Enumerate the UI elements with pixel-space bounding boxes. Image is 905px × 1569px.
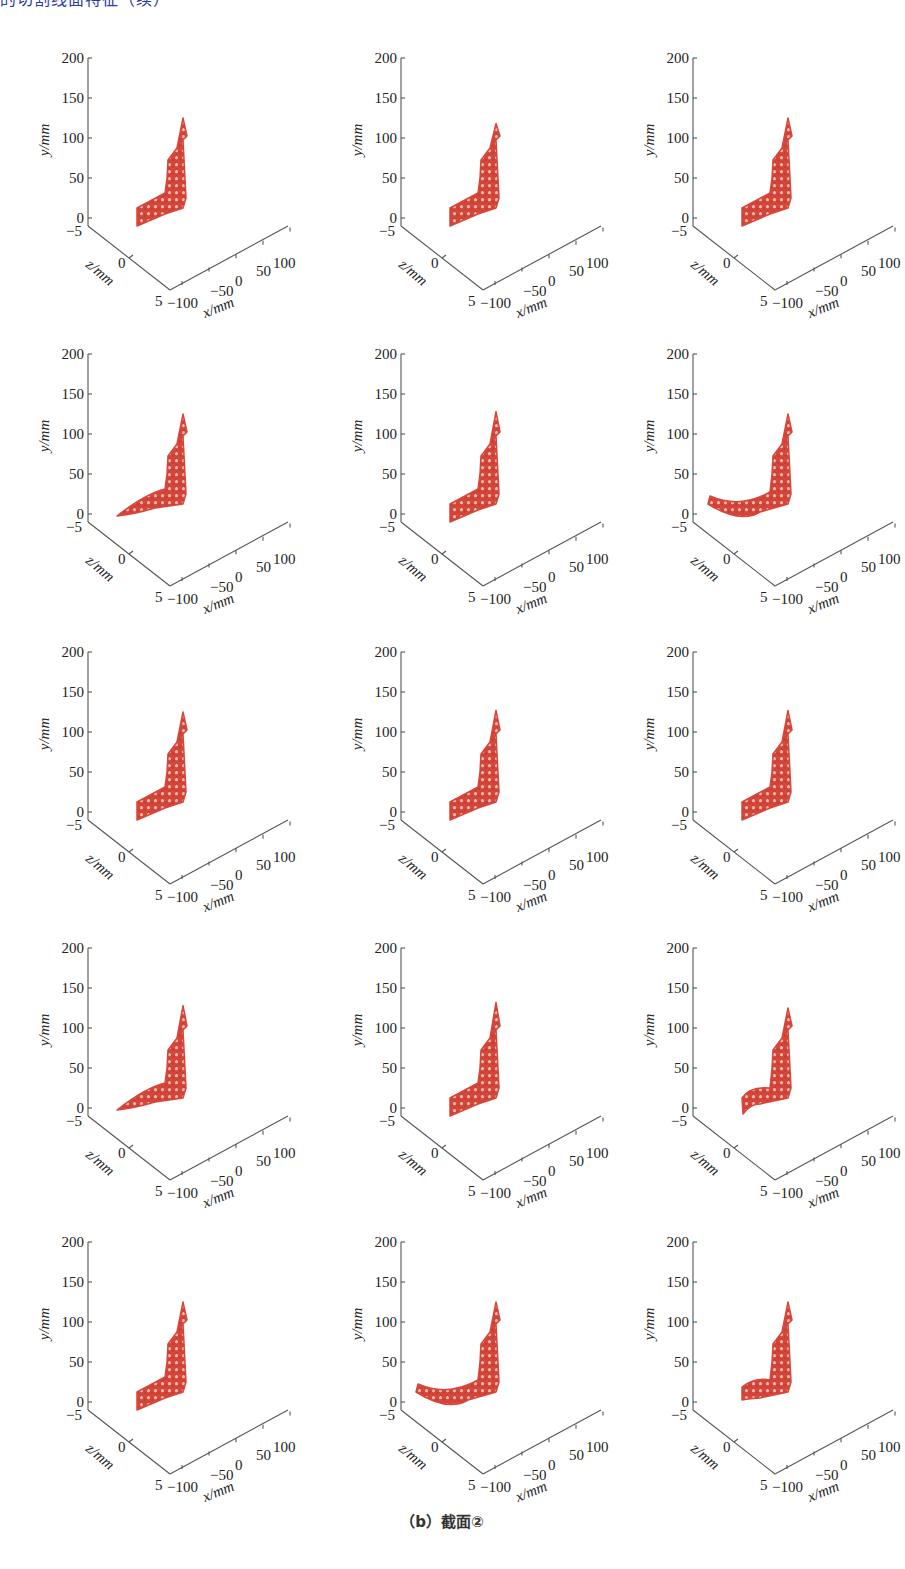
x-tick-label: −100 — [772, 1479, 803, 1495]
mesh-surface — [450, 412, 500, 522]
x-tick-label: 0 — [548, 1457, 556, 1473]
z-tick-label: −5 — [671, 817, 687, 833]
y-tick-label: 200 — [375, 1234, 398, 1250]
mesh-surface — [742, 710, 792, 820]
y-tick-label: 200 — [62, 1234, 85, 1250]
z-tick-label: −5 — [379, 817, 395, 833]
x-tick-label: 50 — [569, 559, 584, 575]
z-tick-label: 0 — [118, 551, 126, 567]
y-tick-label: 150 — [62, 980, 85, 996]
z-tick-label: 5 — [155, 1477, 163, 1493]
y-tick-label: 50 — [674, 1354, 689, 1370]
x-axis-label: x/mm — [804, 888, 841, 915]
x-tick-label: 100 — [273, 255, 296, 271]
x-tick-label: −100 — [480, 1479, 511, 1495]
subplot-2: 200150100500−505−100−50050100y/mmz/mmx/m… — [318, 28, 618, 328]
z-tick-label: 5 — [155, 293, 163, 309]
z-tick-label: −5 — [66, 1407, 82, 1423]
z-tick-label: −5 — [66, 519, 82, 535]
z-tick-label: 0 — [431, 1145, 439, 1161]
x-axis-label: x/mm — [199, 1478, 236, 1505]
y-tick-label: 200 — [375, 50, 398, 66]
z-tick-label: 0 — [723, 1145, 731, 1161]
mesh-surface — [742, 1302, 792, 1400]
x-tick-label: 50 — [861, 1153, 876, 1169]
z-tick-label: 0 — [431, 255, 439, 271]
x-tick-label: −100 — [480, 1185, 511, 1201]
z-tick-label: 5 — [155, 887, 163, 903]
x-tick-label: −100 — [772, 889, 803, 905]
x-tick-label: 50 — [861, 857, 876, 873]
z-axis-label: z/mm — [82, 255, 117, 288]
x-axis-label: x/mm — [804, 1184, 841, 1211]
z-tick-label: 5 — [760, 589, 768, 605]
subplot-10: 200150100500−505−100−50050100y/mmz/mmx/m… — [5, 918, 305, 1218]
y-axis-label: y/mm — [349, 1014, 365, 1049]
z-axis-label: z/mm — [395, 1439, 430, 1472]
x-tick-label: 0 — [840, 867, 848, 883]
y-tick-label: 100 — [667, 724, 690, 740]
z-tick-label: −5 — [671, 519, 687, 535]
y-axis-label: y/mm — [641, 718, 657, 753]
y-tick-label: 100 — [375, 1314, 398, 1330]
y-tick-label: 150 — [375, 386, 398, 402]
z-axis-label: z/mm — [82, 1145, 117, 1178]
z-tick-label: 0 — [118, 849, 126, 865]
y-axis-label: y/mm — [641, 1014, 657, 1049]
mesh-surface — [708, 414, 792, 517]
y-tick-label: 150 — [62, 1274, 85, 1290]
z-axis-label: z/mm — [82, 1439, 117, 1472]
y-axis-label: y/mm — [349, 420, 365, 455]
x-tick-label: 100 — [586, 255, 609, 271]
x-tick-label: 50 — [256, 559, 271, 575]
y-tick-label: 100 — [375, 1020, 398, 1036]
y-tick-label: 150 — [375, 980, 398, 996]
x-tick-label: −100 — [167, 295, 198, 311]
y-tick-label: 150 — [62, 386, 85, 402]
x-tick-label: 100 — [273, 1145, 296, 1161]
y-tick-label: 200 — [667, 50, 690, 66]
z-tick-label: 5 — [155, 589, 163, 605]
y-tick-label: 150 — [667, 386, 690, 402]
subplot-3: 200150100500−505−100−50050100y/mmz/mmx/m… — [610, 28, 905, 328]
mesh-surface — [117, 414, 187, 516]
x-tick-label: 0 — [235, 569, 243, 585]
z-tick-label: 0 — [723, 551, 731, 567]
z-tick-label: 0 — [118, 1145, 126, 1161]
x-axis-label: x/mm — [512, 1478, 549, 1505]
y-tick-label: 100 — [375, 724, 398, 740]
x-axis-label: x/mm — [199, 1184, 236, 1211]
x-tick-label: 100 — [878, 1145, 901, 1161]
x-tick-label: 100 — [878, 551, 901, 567]
y-tick-label: 200 — [375, 940, 398, 956]
subplot-13: 200150100500−505−100−50050100y/mmz/mmx/m… — [5, 1212, 305, 1512]
x-axis-label: x/mm — [512, 888, 549, 915]
z-axis-label: z/mm — [687, 255, 722, 288]
y-axis-label: y/mm — [36, 718, 52, 753]
x-tick-label: 0 — [235, 1457, 243, 1473]
y-axis-label: y/mm — [641, 1308, 657, 1343]
z-axis-label: z/mm — [82, 551, 117, 584]
subplot-6: 200150100500−505−100−50050100y/mmz/mmx/m… — [610, 324, 905, 624]
x-tick-label: 100 — [878, 849, 901, 865]
cropped-header: 的切割线面特征（续） — [0, 0, 884, 8]
z-tick-label: 5 — [468, 887, 476, 903]
x-axis-label: x/mm — [804, 590, 841, 617]
x-tick-label: −100 — [480, 295, 511, 311]
y-tick-label: 100 — [667, 426, 690, 442]
y-tick-label: 200 — [62, 940, 85, 956]
subplot-4: 200150100500−505−100−50050100y/mmz/mmx/m… — [5, 324, 305, 624]
mesh-surface — [416, 1302, 500, 1405]
z-tick-label: −5 — [379, 223, 395, 239]
y-tick-label: 150 — [62, 684, 85, 700]
z-axis-label: z/mm — [395, 1145, 430, 1178]
x-tick-label: 0 — [548, 569, 556, 585]
y-tick-label: 150 — [62, 90, 85, 106]
z-axis-label: z/mm — [687, 1145, 722, 1178]
subplot-1: 200150100500−505−100−50050100y/mmz/mmx/m… — [5, 28, 305, 328]
y-axis-label: y/mm — [36, 420, 52, 455]
y-axis-label: y/mm — [641, 420, 657, 455]
x-tick-label: 50 — [861, 1447, 876, 1463]
x-axis-label: x/mm — [804, 294, 841, 321]
z-axis-label: z/mm — [395, 849, 430, 882]
